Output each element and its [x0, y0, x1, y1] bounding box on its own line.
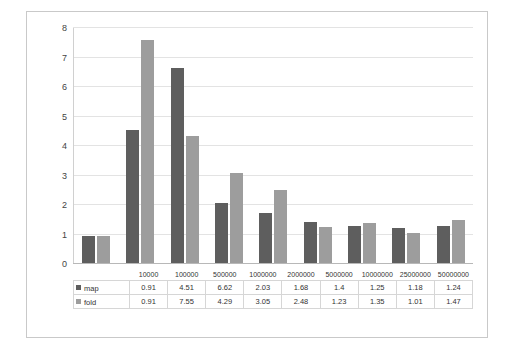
y-axis-tick-label: 0 [62, 259, 67, 269]
y-axis-tick-label: 6 [62, 82, 67, 92]
data-table: 1000010000050000010000002000000500000010… [73, 268, 473, 309]
bar-fold [363, 223, 376, 263]
bar-group [163, 28, 207, 263]
bar-group [118, 28, 162, 263]
y-axis-tick-label: 2 [62, 200, 67, 210]
y-axis-tick-label: 7 [62, 53, 67, 63]
chart-frame: 012345678 100001000005000001000000200000… [26, 11, 488, 338]
bar-fold [274, 190, 287, 263]
y-axis-tick-label: 1 [62, 230, 67, 240]
table-cell-value: 7.55 [168, 295, 206, 309]
table-cell-value: 0.91 [130, 295, 168, 309]
legend-swatch-icon [76, 285, 81, 290]
category-label: 10000000 [358, 268, 396, 281]
legend-label: fold [84, 297, 96, 306]
legend-entry-fold: fold [74, 295, 130, 309]
bar-group [384, 28, 428, 263]
y-axis-tick-label: 5 [62, 112, 67, 122]
bar-group [207, 28, 251, 263]
category-label: 1000000 [244, 268, 282, 281]
table-cell-value: 1.23 [320, 295, 358, 309]
category-label: 2000000 [282, 268, 320, 281]
bar-map [437, 226, 450, 263]
legend-entry-map: map [74, 281, 130, 295]
bar-fold [230, 173, 243, 263]
category-label: 25000000 [396, 268, 434, 281]
table-cell-value: 4.51 [168, 281, 206, 295]
bar-fold [319, 227, 332, 263]
table-corner-cell [74, 268, 130, 281]
table-cell-value: 1.35 [358, 295, 396, 309]
table-cell-value: 1.47 [434, 295, 472, 309]
y-axis-tick-label: 3 [62, 171, 67, 181]
category-label: 5000000 [320, 268, 358, 281]
legend-swatch-icon [76, 299, 81, 304]
bar-fold [452, 220, 465, 263]
category-label: 500000 [206, 268, 244, 281]
bar-map [126, 130, 139, 263]
table-cell-value: 6.62 [206, 281, 244, 295]
bar-groups [74, 28, 473, 263]
category-label: 50000000 [434, 268, 472, 281]
table-cell-value: 1.24 [434, 281, 472, 295]
bar-fold [407, 233, 420, 263]
table-cell-value: 1.25 [358, 281, 396, 295]
table-cell-value: 1.4 [320, 281, 358, 295]
table-cell-value: 4.29 [206, 295, 244, 309]
plot-area: 012345678 [73, 28, 473, 264]
category-label: 10000 [130, 268, 168, 281]
bar-map [171, 68, 184, 263]
bar-map [82, 236, 95, 263]
bar-fold [141, 40, 154, 263]
y-axis-tick-label: 4 [62, 141, 67, 151]
x-axis-line [73, 263, 473, 264]
y-axis-tick-label: 8 [62, 23, 67, 33]
bar-map [348, 226, 361, 263]
chart-page: 012345678 100001000005000001000000200000… [0, 0, 513, 353]
legend-label: map [84, 283, 99, 292]
bar-group [251, 28, 295, 263]
bar-map [215, 203, 228, 263]
bar-map [259, 213, 272, 263]
table-cell-value: 1.01 [396, 295, 434, 309]
table-cell-value: 2.48 [282, 295, 320, 309]
table-cell-value: 1.18 [396, 281, 434, 295]
category-header-row: 1000010000050000010000002000000500000010… [74, 268, 473, 281]
bar-fold [97, 236, 110, 263]
table-cell-value: 2.03 [244, 281, 282, 295]
bar-group [296, 28, 340, 263]
bar-map [392, 228, 405, 263]
bar-group [429, 28, 473, 263]
bar-fold [186, 136, 199, 263]
table-cell-value: 3.05 [244, 295, 282, 309]
table-row-fold: fold0.917.554.293.052.481.231.351.011.47 [74, 295, 473, 309]
bar-group [74, 28, 118, 263]
table-cell-value: 1.68 [282, 281, 320, 295]
bar-group [340, 28, 384, 263]
table-cell-value: 0.91 [130, 281, 168, 295]
table-row-map: map0.914.516.622.031.681.41.251.181.24 [74, 281, 473, 295]
category-label: 100000 [168, 268, 206, 281]
bar-map [304, 222, 317, 263]
